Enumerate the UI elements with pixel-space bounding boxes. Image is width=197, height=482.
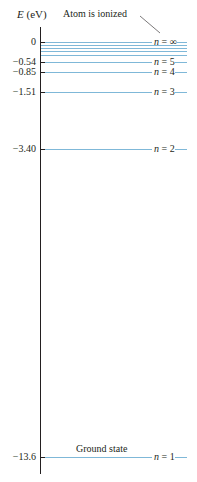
ionized-leader-line <box>0 0 197 482</box>
ground-state-label: Ground state <box>76 443 127 454</box>
